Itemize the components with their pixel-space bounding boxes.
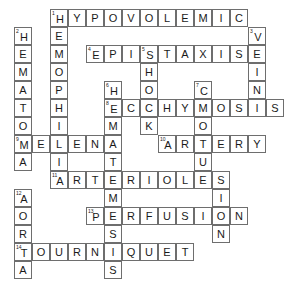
crossword-cell[interactable]: I [248,99,266,117]
crossword-cell[interactable]: I [104,243,122,261]
crossword-cell[interactable]: H [50,99,68,117]
crossword-cell[interactable]: 7C [194,81,212,99]
crossword-cell[interactable]: P [104,45,122,63]
crossword-cell[interactable]: N [248,81,266,99]
crossword-cell[interactable]: S [230,45,248,63]
crossword-cell[interactable]: A [176,45,194,63]
crossword-cell[interactable]: O [14,117,32,135]
crossword-cell[interactable]: S [104,225,122,243]
crossword-cell[interactable]: 2H [14,27,32,45]
crossword-cell[interactable]: E [176,9,194,27]
crossword-cell[interactable]: I [50,117,68,135]
crossword-cell[interactable]: R [14,225,32,243]
crossword-cell[interactable]: A [14,81,32,99]
crossword-cell[interactable]: O [14,207,32,225]
crossword-cell[interactable]: M [14,63,32,81]
crossword-cell[interactable]: I [212,189,230,207]
crossword-cell[interactable]: O [104,9,122,27]
crossword-cell[interactable]: K [140,117,158,135]
crossword-cell[interactable]: E [104,207,122,225]
crossword-cell[interactable]: S [212,171,230,189]
crossword-cell[interactable]: R [68,171,86,189]
crossword-cell[interactable]: U [158,207,176,225]
crossword-cell[interactable]: R [68,243,86,261]
crossword-cell[interactable]: Y [248,135,266,153]
crossword-cell[interactable]: I [50,153,68,171]
crossword-cell[interactable]: E [32,135,50,153]
crossword-cell[interactable]: C [230,9,248,27]
crossword-cell[interactable]: T [86,171,104,189]
crossword-cell[interactable]: I [212,45,230,63]
crossword-cell[interactable]: S [230,99,248,117]
crossword-cell[interactable]: M [50,45,68,63]
crossword-cell[interactable]: O [140,81,158,99]
crossword-cell[interactable]: H [158,99,176,117]
crossword-cell[interactable]: O [50,63,68,81]
crossword-cell[interactable]: U [50,243,68,261]
crossword-cell[interactable]: I [122,45,140,63]
crossword-cell[interactable]: Y [176,99,194,117]
crossword-cell[interactable]: V [122,9,140,27]
crossword-cell[interactable]: M [194,9,212,27]
crossword-cell[interactable]: E [194,171,212,189]
crossword-cell[interactable]: T [176,243,194,261]
crossword-cell[interactable]: P [50,81,68,99]
crossword-cell[interactable]: E [212,135,230,153]
crossword-cell[interactable]: O [158,171,176,189]
crossword-cell[interactable]: T [104,153,122,171]
crossword-cell[interactable]: N [212,225,230,243]
crossword-cell[interactable]: R [122,171,140,189]
crossword-cell[interactable]: O [212,207,230,225]
crossword-cell[interactable]: 13P [86,207,104,225]
crossword-cell[interactable]: H [140,63,158,81]
crossword-cell[interactable]: E [50,27,68,45]
crossword-cell[interactable]: 3V [248,27,266,45]
crossword-cell[interactable]: M [104,117,122,135]
crossword-cell[interactable]: I [248,63,266,81]
crossword-cell[interactable]: T [158,45,176,63]
crossword-cell[interactable]: T [14,99,32,117]
crossword-cell[interactable]: 4E [86,45,104,63]
crossword-cell[interactable]: 1H [50,9,68,27]
crossword-cell[interactable]: 9M [14,135,32,153]
crossword-cell[interactable]: L [50,135,68,153]
crossword-cell[interactable]: N [86,135,104,153]
crossword-cell[interactable]: O [212,99,230,117]
crossword-cell[interactable]: F [140,207,158,225]
crossword-cell[interactable]: E [158,243,176,261]
crossword-cell[interactable]: T [194,135,212,153]
crossword-cell[interactable]: 6H [104,81,122,99]
crossword-cell[interactable]: 8E [104,99,122,117]
crossword-cell[interactable]: 5S [140,45,158,63]
crossword-cell[interactable]: Q [122,243,140,261]
crossword-cell[interactable]: O [32,243,50,261]
crossword-cell[interactable]: C [140,99,158,117]
crossword-cell[interactable]: I [212,9,230,27]
crossword-cell[interactable]: P [86,9,104,27]
crossword-cell[interactable]: R [176,135,194,153]
crossword-cell[interactable]: A [104,135,122,153]
crossword-cell[interactable]: 11A [50,171,68,189]
crossword-cell[interactable]: A [14,261,32,279]
crossword-cell[interactable]: 14T [14,243,32,261]
crossword-cell[interactable]: E [248,45,266,63]
crossword-cell[interactable]: L [158,9,176,27]
crossword-cell[interactable]: X [194,45,212,63]
crossword-cell[interactable]: S [104,261,122,279]
crossword-cell[interactable]: M [194,99,212,117]
crossword-cell[interactable]: E [14,45,32,63]
crossword-cell[interactable]: 10A [158,135,176,153]
crossword-cell[interactable]: 12A [14,189,32,207]
crossword-cell[interactable]: I [194,207,212,225]
crossword-cell[interactable]: N [86,243,104,261]
crossword-cell[interactable]: O [194,117,212,135]
crossword-cell[interactable]: M [104,189,122,207]
crossword-cell[interactable]: L [176,171,194,189]
crossword-cell[interactable]: E [68,135,86,153]
crossword-cell[interactable]: I [140,171,158,189]
crossword-cell[interactable]: U [140,243,158,261]
crossword-cell[interactable]: R [122,207,140,225]
crossword-cell[interactable]: E [104,171,122,189]
crossword-cell[interactable]: U [194,153,212,171]
crossword-cell[interactable]: R [230,135,248,153]
